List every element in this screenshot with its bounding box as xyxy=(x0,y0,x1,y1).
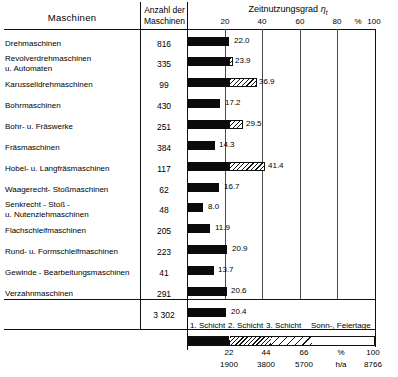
legend-segment-shift1 xyxy=(189,337,230,345)
row-label: Bohr- u. Fräswerke xyxy=(5,122,139,132)
row-count: 291 xyxy=(141,289,187,299)
row-count: 41 xyxy=(141,268,187,278)
bar-shift1 xyxy=(188,57,229,66)
gridline-80 xyxy=(337,29,338,299)
column-divider-2 xyxy=(187,2,188,350)
row-label-line1: Bohr- u. Fräswerke xyxy=(5,122,139,132)
bar-value-label: 22.0 xyxy=(234,36,250,45)
bottom-tick-percent-66: 66 xyxy=(291,348,317,357)
x-tick-label-100: 100 xyxy=(362,17,386,26)
bottom-tick-percent-22: 22 xyxy=(216,348,242,357)
bar-value-label: 8.0 xyxy=(208,202,219,211)
axis-title-text: Zeitnutzungsgrad xyxy=(249,4,319,14)
bar-value-label: 29.5 xyxy=(246,119,262,128)
bottom-unit-percent: % xyxy=(328,348,354,357)
row-count: 335 xyxy=(141,59,187,69)
column-header-machine-count: Anzahl der Maschinen xyxy=(142,5,187,27)
column-header-machine-count-line2: Maschinen xyxy=(142,16,187,27)
row-label-line1: Fräsmaschinen xyxy=(5,143,139,153)
bar-value-label: 20.9 xyxy=(232,244,248,253)
bottom-tick-percent-44: 44 xyxy=(253,348,279,357)
row-label-line1: Drehmaschinen xyxy=(5,39,139,49)
row-count: 117 xyxy=(141,164,187,174)
row-label: Verzahnmaschinen xyxy=(5,289,139,299)
row-count: 816 xyxy=(141,39,187,49)
chart-figure: Maschinen Anzahl der Maschinen Zeitnutzu… xyxy=(0,0,398,377)
row-count: 384 xyxy=(141,143,187,153)
bar-value-label: 41.4 xyxy=(268,161,284,170)
bar-total xyxy=(188,308,226,317)
bar-shift2 xyxy=(229,57,233,66)
row-count: 251 xyxy=(141,122,187,132)
legend-label-shift3: 3. Schicht xyxy=(266,321,301,330)
row-label-line1: Karusselldrehmaschinen xyxy=(5,80,139,90)
legend-segment-shift2 xyxy=(230,337,271,345)
legend-label-holidays: Sonn-, Feiertage xyxy=(311,321,371,330)
bar-shift1 xyxy=(188,266,214,275)
bar-shift1 xyxy=(188,245,227,254)
bar-shift2 xyxy=(229,120,243,129)
bar-value-label: 20.6 xyxy=(231,286,247,295)
row-label: Rund- u. Formschleifmaschinen xyxy=(5,247,139,257)
column-header-machines: Maschinen xyxy=(4,12,140,23)
row-label-line1: Flachschleifmaschinen xyxy=(5,226,139,236)
row-label-line1: Revolverdrehmaschinen xyxy=(5,54,139,64)
row-label-line2: u. Nutenziehmaschinen xyxy=(5,210,139,220)
row-label-line1: Verzahnmaschinen xyxy=(5,289,139,299)
bar-shift1 xyxy=(188,99,220,108)
row-count: 223 xyxy=(141,247,187,257)
bottom-tick-hours-5700: 5700 xyxy=(289,360,319,369)
row-label: Bohrmaschinen xyxy=(5,101,139,111)
row-label-line1: Gewinde - Bearbeitungsmaschinen xyxy=(5,268,139,278)
row-label-line1: Hobel- u. Langfräsmaschinen xyxy=(5,164,139,174)
row-label: Gewinde - Bearbeitungsmaschinen xyxy=(5,268,139,278)
row-label: Fräsmaschinen xyxy=(5,143,139,153)
bar-shift1 xyxy=(188,183,219,192)
bar-value-label: 11.9 xyxy=(215,223,230,232)
x-tick-label-40: 40 xyxy=(250,17,274,26)
bar-value-label: 17.2 xyxy=(225,98,241,107)
legend-scale-bar xyxy=(188,336,375,346)
row-count: 430 xyxy=(141,101,187,111)
gridline-60 xyxy=(300,29,301,299)
bar-shift1 xyxy=(188,120,229,129)
legend-tick-44-notch xyxy=(229,336,230,340)
legend-label-shift2: 2. Schicht xyxy=(228,321,263,330)
legend-label-shift1: 1. Schicht xyxy=(190,321,225,330)
row-label-line1: Rund- u. Formschleifmaschinen xyxy=(5,247,139,257)
bottom-unit-hours: h/a xyxy=(326,360,356,369)
axis-title: Zeitnutzungsgrad ηt xyxy=(188,4,388,16)
bar-value-label: 16.7 xyxy=(224,182,240,191)
row-label: Hobel- u. Langfräsmaschinen xyxy=(5,164,139,174)
row-count: 205 xyxy=(141,226,187,236)
bar-value-label: 23.9 xyxy=(235,56,251,65)
bottom-tick-percent-100: 100 xyxy=(360,348,386,357)
bar-value-label: 20.4 xyxy=(231,307,247,316)
bottom-tick-hours-8766: 8766 xyxy=(358,360,388,369)
bar-shift1 xyxy=(188,224,210,233)
header-rule xyxy=(4,29,375,30)
row-label-line1: Senkrecht - Stoß - xyxy=(5,200,139,210)
column-header-machine-count-line1: Anzahl der xyxy=(142,5,187,16)
row-count: 48 xyxy=(141,205,187,215)
bar-shift2 xyxy=(229,78,257,87)
x-tick-label-20: 20 xyxy=(213,17,237,26)
bar-shift1 xyxy=(188,37,229,46)
row-count: 62 xyxy=(141,185,187,195)
row-label: Revolverdrehmaschinen u. Automaten xyxy=(5,54,139,73)
bar-value-label: 14.3 xyxy=(219,140,235,149)
row-label-line2: u. Automaten xyxy=(5,64,139,74)
row-label: Karusselldrehmaschinen xyxy=(5,80,139,90)
row-label-line1: Bohrmaschinen xyxy=(5,101,139,111)
bottom-tick-hours-3800: 3800 xyxy=(251,360,281,369)
bar-shift1 xyxy=(188,162,229,171)
totals-rule xyxy=(4,299,375,300)
row-label: Senkrecht - Stoß - u. Nutenziehmaschinen xyxy=(5,200,139,219)
bar-shift1 xyxy=(188,141,215,150)
row-count: 99 xyxy=(141,80,187,90)
row-label: Waagerecht- Stoßmaschinen xyxy=(5,185,139,195)
row-label: Flachschleifmaschinen xyxy=(5,226,139,236)
legend-segment-shift3 xyxy=(271,337,312,345)
eta-subscript: t xyxy=(326,9,328,16)
bar-shift1 xyxy=(188,203,203,212)
